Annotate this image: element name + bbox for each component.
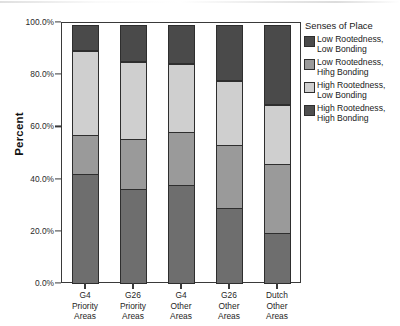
bar-segment [264,233,291,284]
legend-item-label: High Rootedness, High Bonding [317,104,385,124]
legend-item-list: Low Rootedness, Low BondingLow Rootednes… [304,35,400,124]
legend-color-swatch [304,82,315,93]
x-tick-mark [180,283,181,289]
bar-segment [264,164,291,234]
x-category-line: Dutch [246,290,308,301]
bar-segment [216,81,243,146]
bar-stack [72,22,99,283]
bar-group [264,22,291,283]
legend-item[interactable]: High Rootedness, Low Bonding [304,81,400,101]
x-category-line: Areas [246,311,308,322]
bar-group [120,22,147,283]
bar-segment [168,132,195,186]
y-tick-label: 40.0% [6,174,54,184]
bar-stack [120,22,147,283]
bar-segment [72,135,99,175]
x-tick-mark [84,283,85,289]
bar-segment [216,208,243,284]
y-tick-label: 0.0% [6,278,54,288]
legend-item[interactable]: Low Rootedness, Hihg Bonding [304,58,400,78]
bar-segment [168,25,195,64]
bar-group [72,22,99,283]
y-tick-label: 80.0% [6,69,54,79]
y-tick-label: 60.0% [6,121,54,131]
bar-group [216,22,243,283]
bar-group [168,22,195,283]
bar-segment [120,189,147,284]
chart-container: Percent 0.0%20.0%40.0%60.0%80.0%100.0% G… [0,0,400,326]
bar-segment [168,64,195,133]
legend-item[interactable]: Low Rootedness, Low Bonding [304,35,400,55]
scan-artifact [0,1,400,3]
legend-item-label: Low Rootedness, Low Bonding [317,35,383,55]
legend-item[interactable]: High Rootedness, High Bonding [304,104,400,124]
legend-color-swatch [304,36,315,47]
bar-segment [264,105,291,165]
bar-stack [264,22,291,283]
bar-segment [72,51,99,136]
legend-color-swatch [304,105,315,116]
bar-stack [216,22,243,283]
bar-segment [168,185,195,284]
bar-segment [264,25,291,105]
y-axis-title: Percent [13,94,25,174]
bar-segment [72,174,99,284]
x-category-label: DutchOtherAreas [246,290,308,322]
bar-segment [216,25,243,81]
legend-color-swatch [304,59,315,70]
bar-segment [120,62,147,140]
y-tick-label: 100.0% [6,17,54,27]
x-category-line: Other [246,301,308,312]
legend-title: Senses of Place [305,20,400,31]
legend-item-label: Low Rootedness, Hihg Bonding [317,58,383,78]
bar-segment [120,25,147,62]
bar-stack [168,22,195,283]
x-tick-mark [228,283,229,289]
bar-series-layer [61,22,301,283]
bar-segment [216,145,243,209]
bar-segment [120,139,147,190]
legend-item-label: High Rootedness, Low Bonding [317,81,385,101]
x-tick-mark [276,283,277,289]
y-tick-label: 20.0% [6,226,54,236]
x-tick-mark [132,283,133,289]
legend: Senses of Place Low Rootedness, Low Bond… [304,20,400,127]
bar-segment [72,25,99,51]
